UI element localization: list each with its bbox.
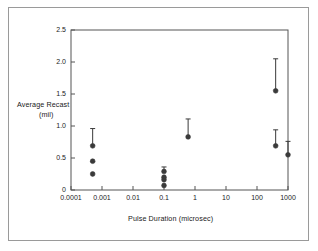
data-point (162, 169, 167, 174)
figure: Average Recast (mil) Pulse Duration (mic… (0, 0, 318, 251)
data-point (186, 134, 191, 139)
data-point (273, 143, 278, 148)
plot-frame (71, 30, 288, 190)
data-point (90, 159, 95, 164)
data-point (162, 183, 167, 188)
data-point (90, 143, 95, 148)
data-point (90, 172, 95, 177)
data-point (273, 88, 278, 93)
data-point (162, 177, 167, 182)
scatter-plot-canvas (0, 0, 318, 251)
data-point (286, 152, 291, 157)
